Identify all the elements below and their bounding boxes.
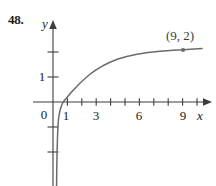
graph-figure: (9, 2) y x 0 1 3 6 9 1 <box>0 0 216 186</box>
origin-label: 0 <box>41 107 48 122</box>
point-annotation-label: (9, 2) <box>166 28 194 43</box>
figure-page: 48. <box>0 0 216 186</box>
x-tick-label-9: 9 <box>180 108 187 123</box>
x-tick-label-6: 6 <box>136 108 143 123</box>
x-axis-label: x <box>196 108 203 123</box>
y-axis-label: y <box>40 16 48 31</box>
y-axis-arrowhead <box>49 20 57 29</box>
x-tick-label-1: 1 <box>63 108 70 123</box>
x-tick-label-3: 3 <box>93 108 100 123</box>
marked-point-9-2 <box>181 48 185 52</box>
y-tick-label-1: 1 <box>39 69 46 84</box>
x-axis-arrowhead <box>203 98 212 106</box>
